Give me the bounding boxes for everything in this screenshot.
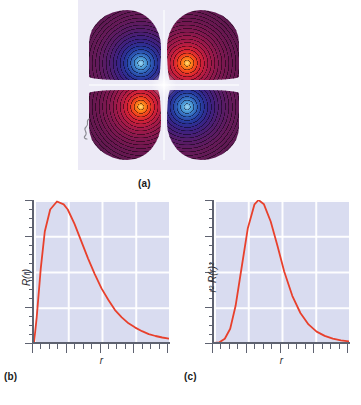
orbital-stage [89, 10, 239, 160]
orbital-lobe-bottom-right [167, 90, 239, 160]
panel-caption-c: (c) [184, 371, 197, 382]
plot-b-x-axis-label: r [34, 355, 169, 366]
lobe-contour-rings [167, 10, 239, 80]
plot-b-x-ticks [32, 344, 170, 353]
plot-c-plot-area [214, 200, 349, 343]
lobe-contour-rings [89, 10, 161, 80]
plot-b-y-axis-label-text: R(r) [21, 269, 32, 286]
orbital-lobe-top-left [89, 10, 161, 80]
plot-c-x-ticks [212, 344, 350, 353]
plot-c-curve [214, 200, 349, 343]
plot-b-y-axis-label: R(r) [21, 248, 32, 308]
radial-distribution-plot: r² R(r)² r [202, 200, 352, 362]
plot-b-plot-area [34, 200, 169, 343]
nodal-plane-horizontal [89, 84, 239, 86]
handwritten-scribble-mark [80, 118, 94, 140]
nodal-plane-vertical [163, 10, 165, 160]
panel-caption-b: (b) [4, 371, 17, 382]
orbital-lobe-top-right [167, 10, 239, 80]
panel-caption-a: (a) [138, 178, 151, 189]
orbital-contour-image [78, 0, 250, 170]
radial-wavefunction-plot: R(r) r [22, 200, 172, 362]
plot-c-y-axis-label: r² R(r)² [207, 248, 218, 308]
lobe-contour-rings [167, 90, 239, 160]
lobe-contour-rings [89, 90, 161, 160]
plot-b-curve [34, 200, 169, 343]
plot-c-y-axis-label-text: r² R(r)² [207, 263, 218, 293]
orbital-lobe-bottom-left [89, 90, 161, 160]
plot-c-x-axis-label: r [214, 355, 349, 366]
